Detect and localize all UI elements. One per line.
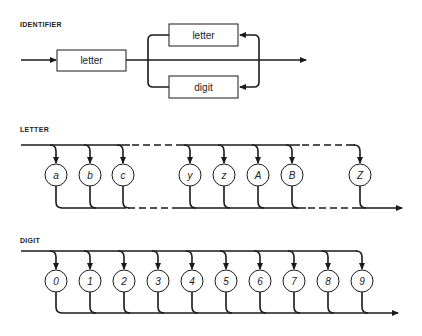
identifier-title: IDENTIFIER	[20, 21, 62, 28]
down-arrow-icon	[184, 145, 190, 163]
merge-path	[90, 186, 96, 208]
merge-path	[294, 292, 300, 313]
letter-box-label: letter	[80, 55, 103, 66]
merge-path	[124, 292, 130, 313]
digit-terminal-3: 3	[147, 251, 169, 313]
digit-terminal-5: 5	[215, 251, 237, 313]
letter-terminal-c: c	[112, 145, 134, 208]
digit-terminal-4: 4	[181, 251, 203, 313]
letter-terminal-Z: Z	[349, 145, 371, 208]
merge-path	[260, 292, 266, 313]
down-arrow-icon	[84, 251, 90, 269]
down-arrow-icon	[152, 251, 158, 269]
terminal-label: a	[53, 170, 59, 181]
merge-path	[292, 186, 298, 208]
down-arrow-icon	[286, 145, 292, 163]
terminal-label: 4	[189, 276, 195, 287]
terminal-label: z	[221, 170, 227, 181]
upper-loop-left	[148, 35, 169, 60]
terminal-label: 9	[359, 276, 365, 287]
down-arrow-icon	[218, 145, 224, 163]
merge-path	[360, 186, 366, 208]
merge-path	[190, 186, 196, 208]
terminal-label: 3	[155, 276, 161, 287]
digit-terminal-0: 0	[45, 251, 67, 313]
terminal-label: y	[187, 170, 194, 181]
merge-path	[56, 186, 62, 208]
loop-digit-label: digit	[194, 82, 213, 93]
digit-terminal-7: 7	[283, 251, 305, 313]
letter-title: LETTER	[20, 126, 49, 133]
digit-terminal-6: 6	[249, 251, 271, 313]
down-arrow-icon	[252, 145, 258, 163]
down-arrow-icon	[118, 251, 124, 269]
letter-terminal-y: y	[179, 145, 201, 208]
terminal-label: A	[254, 170, 262, 181]
upper-loop-arrow-icon	[240, 35, 259, 60]
digit-terminal-2: 2	[113, 251, 135, 313]
merge-path	[328, 292, 334, 313]
lower-loop-arrow-icon	[240, 60, 259, 87]
merge-path	[56, 292, 62, 313]
lower-loop-left	[148, 60, 169, 87]
down-arrow-icon	[254, 251, 260, 269]
digit-terminal-8: 8	[317, 251, 339, 313]
digit-terminal-9: 9	[351, 251, 373, 313]
terminal-label: b	[87, 170, 93, 181]
merge-path	[226, 292, 232, 313]
terminal-label: 8	[325, 276, 331, 287]
digit-diagram: DIGIT 0123456789	[20, 237, 398, 313]
down-arrow-icon	[356, 251, 362, 269]
down-arrow-icon	[84, 145, 90, 163]
down-arrow-icon	[117, 145, 123, 163]
terminal-label: 0	[53, 276, 59, 287]
terminal-label: 1	[87, 276, 93, 287]
merge-path	[158, 292, 164, 313]
terminal-label: 6	[257, 276, 263, 287]
letter-terminal-a: a	[45, 145, 67, 208]
merge-path	[258, 186, 264, 208]
terminal-label: B	[289, 170, 296, 181]
letter-terminal-z: z	[213, 145, 235, 208]
down-arrow-icon	[354, 145, 360, 163]
terminal-label: 2	[120, 276, 127, 287]
merge-path	[90, 292, 96, 313]
terminal-label: 5	[223, 276, 229, 287]
merge-path	[123, 186, 129, 208]
digit-terminal-1: 1	[79, 251, 101, 313]
merge-path	[224, 186, 230, 208]
loop-letter-label: letter	[192, 30, 215, 41]
identifier-diagram: IDENTIFIER letter letter digit	[20, 21, 306, 98]
down-arrow-icon	[50, 145, 56, 163]
letter-terminal-b: b	[79, 145, 101, 208]
terminal-label: 7	[291, 276, 297, 287]
letter-terminal-A: A	[247, 145, 269, 208]
terminal-label: c	[121, 170, 126, 181]
down-arrow-icon	[50, 251, 56, 269]
merge-path	[362, 292, 368, 313]
down-arrow-icon	[220, 251, 226, 269]
merge-path	[192, 292, 198, 313]
syntax-diagram-canvas: IDENTIFIER letter letter digit LETTER ab…	[0, 0, 422, 336]
terminal-label: Z	[356, 170, 364, 181]
down-arrow-icon	[186, 251, 192, 269]
digit-title: DIGIT	[20, 237, 41, 244]
down-arrow-icon	[288, 251, 294, 269]
letter-diagram: LETTER abcyzABZ	[20, 126, 402, 208]
letter-terminal-B: B	[281, 145, 303, 208]
down-arrow-icon	[322, 251, 328, 269]
